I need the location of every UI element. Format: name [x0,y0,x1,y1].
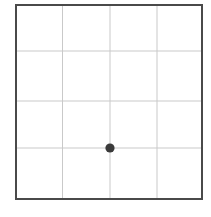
grid-plot-canvas [0,0,211,217]
figure-root [0,0,211,217]
plot-area-background [15,4,203,200]
data-point-marker [105,143,114,152]
